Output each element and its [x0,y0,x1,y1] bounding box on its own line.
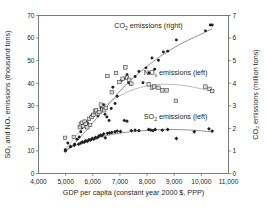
co2-point [114,102,117,105]
y-right-tick-label-4: 4 [233,80,237,87]
nox-point [110,90,114,94]
y-left-tick-label-40: 40 [27,80,35,87]
so2-point [103,136,107,140]
so2-label: SO2 emissions (left) [144,112,208,122]
nox-point [72,135,76,139]
co2-point [151,56,154,59]
y-left-tick-label-30: 30 [27,102,35,109]
chart-canvas: 4,0005,0006,0007,0008,0009,00010,00011,0… [0,0,267,208]
co2-label: CO2 emissions (right) [114,21,182,31]
co2-point [110,107,113,110]
y-right-tick-label-6: 6 [233,34,237,41]
x-tick-label-6000: 6,000 [85,178,102,185]
so2-point [210,129,214,133]
co2-point [104,113,107,116]
co2-point [79,130,82,133]
co2-point [116,95,119,98]
co2-point [66,142,69,145]
nox-point [124,66,128,70]
nox-point [99,103,103,107]
co2-point [108,119,111,122]
co2-point [111,86,114,89]
co2-point [76,138,79,141]
co2-point [211,24,214,27]
co2-point [105,116,108,119]
so2-point [125,119,129,123]
y-left-tick-label-60: 60 [27,34,35,41]
x-tick-label-8000: 8,000 [139,178,156,185]
co2-point [166,50,169,53]
co2-point [162,51,165,54]
nox-point [94,109,98,113]
nox-point [161,89,165,93]
nox-label: NOx emissions (left) [144,68,208,78]
y-left-tick-label-70: 70 [27,12,35,19]
y-axis-left-title: SO₂ and NOₓ emissions (thousand tons) [3,30,12,158]
nox-point [127,78,131,82]
so2-point [122,119,126,123]
co2-point [142,81,145,84]
nox-point [121,77,125,81]
co2-point [157,59,160,62]
co2-point [134,75,137,78]
y-right-tick-label-5: 5 [233,57,237,64]
nox-point [130,82,134,86]
so2-point [137,129,141,133]
y-left-tick-label-10: 10 [27,147,35,154]
y-left-tick-label-50: 50 [27,57,35,64]
co2-point [137,70,140,73]
emissions-scatter-chart: 4,0005,0006,0007,0008,0009,00010,00011,0… [0,0,267,208]
x-tick-label-5000: 5,000 [57,178,74,185]
so2-point [160,128,164,132]
co2-point [78,135,81,138]
nox-point [63,136,67,140]
so2-point [166,128,170,132]
nox-point [84,122,88,126]
nox-point [147,83,151,87]
nox-point [165,89,169,93]
nox-point [104,106,108,110]
co2-point [175,38,178,41]
x-axis-title: GDP per capita (constant year 2000 $, PP… [63,188,204,197]
y-right-tick-label-3: 3 [233,102,237,109]
so2-point [207,127,211,131]
nox-point [174,99,178,103]
x-tick-label-4000: 4,000 [30,178,47,185]
y-left-tick-label-0: 0 [31,170,35,177]
y-right-tick-label-0: 0 [233,170,237,177]
nox-point [152,85,156,89]
x-tick-label-9000: 9,000 [166,178,183,185]
so2-point [174,137,178,141]
nox-point [114,71,118,75]
nox-point [118,80,122,84]
co2-trend [65,29,212,152]
y-right-tick-label-7: 7 [233,12,237,19]
nox-point [106,74,110,78]
nox-point [98,110,102,114]
nox-point [210,89,214,93]
x-tick-label-7000: 7,000 [112,178,129,185]
nox-point [88,123,92,127]
co2-point [204,29,207,32]
y-right-tick-label-1: 1 [233,147,237,154]
y-left-tick-label-20: 20 [27,125,35,132]
x-tick-label-10000: 10,000 [191,178,212,185]
x-tick-label-11000: 11,000 [219,178,239,185]
nox-point [92,113,96,117]
nox-point [157,86,161,90]
nox-point [204,85,208,89]
y-right-tick-label-2: 2 [233,125,237,132]
y-axis-right-title: CO₂ emissions (million tons) [251,49,260,139]
